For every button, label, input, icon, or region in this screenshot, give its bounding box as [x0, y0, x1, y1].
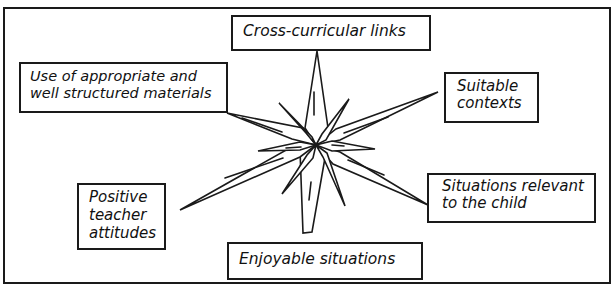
node-text-line-2: teacher: [89, 206, 164, 224]
node-situations-relevant: Situations relevant to the child: [427, 173, 596, 223]
node-positive-teacher-attitudes: Positive teacher attitudes: [77, 183, 166, 250]
node-text: Cross-curricular links: [243, 23, 429, 41]
node-text-line-2: contexts: [457, 95, 537, 112]
node-text-line-1: Situations relevant: [442, 178, 594, 195]
node-text-line-1: Suitable: [457, 78, 537, 95]
node-text-line-2: to the child: [442, 195, 594, 212]
node-appropriate-materials: Use of appropriate and well structured m…: [19, 62, 228, 113]
node-text: Enjoyable situations: [239, 251, 421, 269]
node-cross-curricular-links: Cross-curricular links: [231, 15, 431, 51]
node-text-line-3: attitudes: [89, 224, 164, 242]
node-text-line-1: Positive: [89, 188, 164, 206]
node-enjoyable-situations: Enjoyable situations: [227, 242, 423, 280]
node-text-line-1: Use of appropriate and: [30, 68, 226, 85]
node-text-line-2: well structured materials: [30, 85, 226, 102]
node-suitable-contexts: Suitable contexts: [444, 72, 539, 123]
